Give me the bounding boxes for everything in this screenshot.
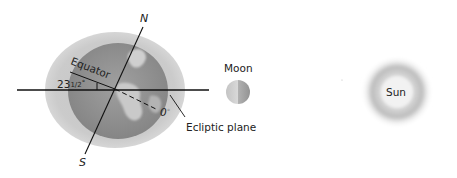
earth: N S Equator 231/2° 0° Ecliptic plane [17, 12, 256, 169]
moon: Moon [224, 62, 253, 104]
moon-label: Moon [224, 62, 253, 74]
tilt-angle-whole: 23 [57, 78, 70, 90]
zero-degree-sign: ° [167, 108, 171, 116]
tilt-angle-degree: ° [82, 79, 86, 87]
moon-body [226, 80, 250, 104]
earth-moon-sun-diagram: N S Equator 231/2° 0° Ecliptic plane Moo… [0, 0, 457, 178]
speck [341, 79, 342, 80]
north-label: N [140, 12, 148, 25]
sun: Sun [361, 56, 433, 128]
sun-label: Sun [386, 86, 406, 98]
ecliptic-plane-label: Ecliptic plane [186, 121, 256, 133]
tilt-angle-fraction: 1/2 [70, 81, 81, 89]
south-label: S [79, 156, 86, 169]
